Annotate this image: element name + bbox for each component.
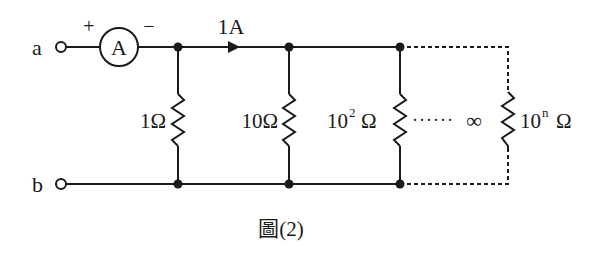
svg-text:Ω: Ω: [556, 109, 572, 133]
node-dot: [396, 43, 405, 52]
terminal-b-label: b: [32, 172, 43, 197]
resistor-3-label: 10 2 Ω: [327, 105, 377, 133]
svg-text:10: 10: [327, 109, 348, 133]
resistor-3-zigzag: [394, 94, 406, 146]
svg-text:Ω: Ω: [361, 109, 377, 133]
svg-text:2: 2: [349, 105, 356, 120]
resistor-1-label: 1Ω: [140, 109, 166, 133]
node-dot: [174, 43, 183, 52]
node-dot: [174, 180, 183, 189]
resistor-2-label: 10Ω: [241, 109, 278, 133]
resistor-1-zigzag: [172, 94, 184, 146]
node-dot: [285, 180, 294, 189]
resistor-n-label: 10 n Ω: [520, 105, 572, 133]
svg-text:n: n: [542, 105, 549, 120]
terminal-a-icon: [56, 42, 66, 52]
node-dot: [396, 180, 405, 189]
infinity-symbol: ∞: [466, 108, 482, 133]
current-arrow-icon: [228, 41, 240, 53]
dashed-top-extension: [400, 47, 508, 92]
current-label: 1A: [218, 14, 245, 39]
node-dot: [285, 43, 294, 52]
terminal-a-label: a: [32, 35, 42, 60]
svg-text:10: 10: [520, 109, 541, 133]
ammeter-minus-label: −: [143, 15, 154, 37]
terminal-b-icon: [56, 179, 66, 189]
figure-caption: 圖(2): [258, 217, 304, 241]
dashed-bottom-extension: [400, 148, 508, 184]
circuit-diagram: a b A + − 1A 1Ω 10Ω 10 2 Ω ······ ∞ 10 n…: [0, 0, 604, 256]
ammeter-plus-label: +: [83, 15, 94, 37]
ellipsis-dots: ······: [412, 110, 454, 130]
resistor-2-zigzag: [283, 94, 295, 146]
ammeter-symbol: A: [111, 35, 127, 60]
resistor-n-zigzag: [502, 92, 514, 148]
